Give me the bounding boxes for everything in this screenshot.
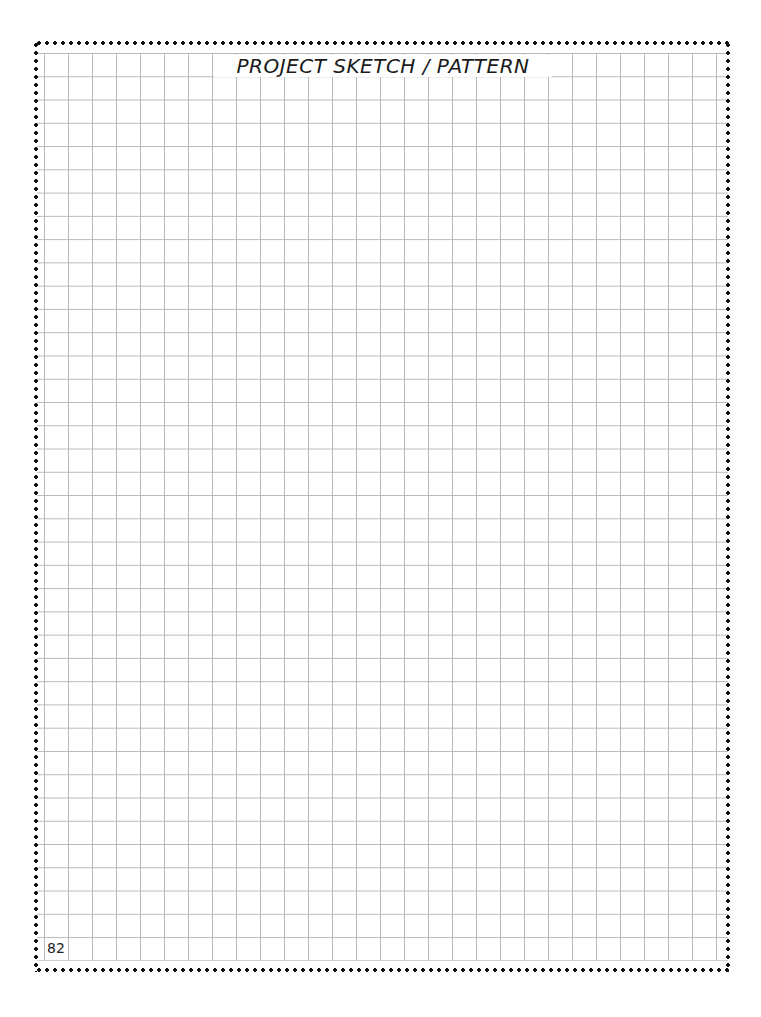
graph-paper-grid [44,53,717,961]
dotted-border-top [35,41,732,45]
dotted-border-bottom [35,968,732,972]
dotted-border-right [726,41,730,972]
journal-page: PROJECT SKETCH / PATTERN 82 [0,0,761,1017]
page-number: 82 [46,940,66,956]
grid-left-margin [37,53,44,961]
dotted-border-left [34,41,38,972]
page-title: PROJECT SKETCH / PATTERN [214,55,552,77]
